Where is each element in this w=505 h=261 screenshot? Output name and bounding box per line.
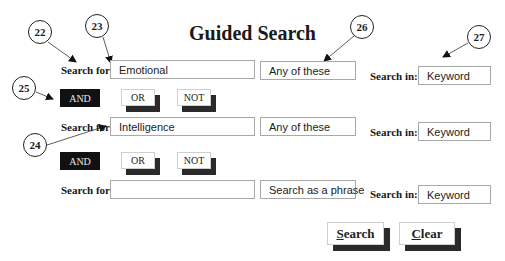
match-mode-select-3[interactable]: Search as a phrase (260, 180, 356, 199)
search-term-input-3[interactable] (110, 180, 255, 199)
search-for-label-2: Search for: (61, 121, 114, 133)
clear-button[interactable]: Clear (399, 222, 455, 245)
clear-accesskey: C (411, 226, 420, 242)
page-title: Guided Search (0, 22, 505, 45)
and-button-2[interactable]: AND (60, 152, 100, 170)
callout-27: 27 (467, 25, 491, 49)
and-button-1[interactable]: AND (60, 89, 100, 107)
not-button-1[interactable]: NOT (177, 89, 211, 106)
search-button-label: earch (344, 226, 375, 242)
callout-22: 22 (28, 20, 52, 44)
match-mode-select-2[interactable]: Any of these (260, 117, 356, 136)
callout-24: 24 (23, 133, 47, 157)
not-button-2[interactable]: NOT (177, 152, 211, 169)
search-term-input-1[interactable]: Emotional (110, 60, 255, 79)
search-field-select-3[interactable]: Keyword (418, 185, 491, 204)
callout-26: 26 (350, 15, 374, 39)
search-for-label-1: Search for: (61, 64, 114, 76)
match-mode-select-1[interactable]: Any of these (260, 61, 356, 80)
search-in-label-3: Search in: (370, 188, 418, 200)
or-button-1[interactable]: OR (121, 89, 155, 106)
or-button-2[interactable]: OR (121, 152, 155, 169)
search-in-label-2: Search in: (370, 126, 418, 138)
search-button[interactable]: Search (327, 222, 384, 245)
callout-25: 25 (12, 76, 36, 100)
search-field-select-2[interactable]: Keyword (418, 122, 491, 141)
search-accesskey: S (336, 226, 343, 242)
search-for-label-3: Search for: (61, 184, 114, 196)
callout-23: 23 (85, 14, 109, 38)
clear-button-label: lear (421, 226, 443, 242)
search-field-select-1[interactable]: Keyword (418, 66, 491, 85)
search-term-input-2[interactable]: Intelligence (110, 117, 255, 136)
search-in-label-1: Search in: (370, 70, 418, 82)
